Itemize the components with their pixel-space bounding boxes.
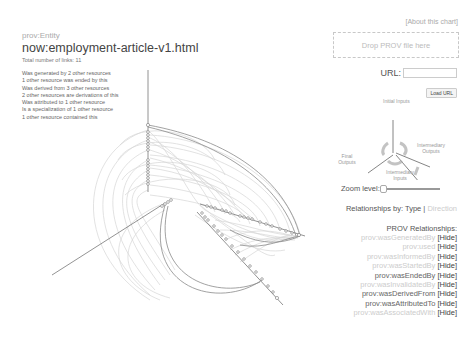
relationship-name[interactable]: prov:used [402, 242, 435, 251]
hide-button[interactable]: [Hide] [437, 252, 457, 261]
url-input[interactable] [403, 68, 457, 78]
relationships-by-toggle: Relationships by: Type | Direction [346, 204, 457, 213]
prov-relationship-row: prov:wasStartedBy [Hide] [354, 261, 457, 270]
entity-info-panel: prov:Entity now:employment-article-v1.ht… [22, 31, 222, 121]
prov-relationship-row: prov:used [Hide] [354, 242, 457, 251]
total-links: Total number of links: 11 [22, 56, 222, 64]
edges-dark [148, 125, 300, 293]
intermediary-inputs-label: Intermediary Inputs [382, 169, 418, 181]
url-label: URL: [380, 68, 401, 78]
relation-line: Was attributed to 1 other resource [22, 99, 222, 106]
relationship-name[interactable]: prov:wasGeneratedBy [361, 233, 435, 242]
relationship-name[interactable]: prov:wasEndedBy [375, 271, 435, 280]
relationship-name[interactable]: prov:wasAssociatedWith [354, 308, 436, 317]
relationships-by-type[interactable]: Type [405, 204, 421, 213]
separator: | [423, 204, 425, 213]
hide-button[interactable]: [Hide] [437, 233, 457, 242]
prov-relationships-heading: PROV Relationships: [354, 224, 457, 233]
about-chart-link[interactable]: [About this chart] [405, 18, 458, 25]
hide-button[interactable]: [Hide] [437, 271, 457, 280]
prov-relationship-row: prov:wasInformedBy [Hide] [354, 252, 457, 261]
hide-button[interactable]: [Hide] [437, 289, 457, 298]
hide-button[interactable]: [Hide] [437, 280, 457, 289]
relationship-name[interactable]: prov:wasAttributedTo [365, 299, 435, 308]
final-outputs-label: Final Outputs [336, 153, 358, 165]
hide-button[interactable]: [Hide] [437, 308, 457, 317]
prov-relationship-row: prov:wasDerivedFrom [Hide] [354, 289, 457, 298]
hide-button[interactable]: [Hide] [437, 242, 457, 251]
relation-line: Was generated by 2 other resources [22, 70, 222, 77]
axes-legend-icon [330, 95, 460, 180]
relationships-by-label: Relationships by: [346, 204, 403, 213]
relation-line: Was derived from 3 other resources [22, 85, 222, 92]
zoom-slider-handle[interactable] [380, 185, 387, 193]
entity-relations-list: Was generated by 2 other resources 1 oth… [22, 70, 222, 121]
entity-title: now:employment-article-v1.html [22, 41, 222, 55]
prov-relationship-row: prov:wasAttributedTo [Hide] [354, 299, 457, 308]
relation-line: 1 other resource was ended by this [22, 77, 222, 84]
prov-relationships-panel: PROV Relationships: prov:wasGeneratedBy … [354, 224, 457, 318]
url-row: URL: [380, 68, 457, 78]
entity-type: prov:Entity [22, 31, 222, 41]
relationships-by-direction[interactable]: Direction [427, 204, 457, 213]
drop-prov-file-zone[interactable]: Drop PROV file here [333, 32, 459, 58]
relation-line: 2 other resources are derivations of thi… [22, 92, 222, 99]
edges-light [93, 130, 300, 300]
relation-line: Is a specialization of 1 other resource [22, 106, 222, 113]
intermediary-outputs-label: Intermediary Outputs [412, 142, 450, 154]
prov-relationship-row: prov:wasInvalidatedBy [Hide] [354, 280, 457, 289]
relationship-name[interactable]: prov:wasDerivedFrom [362, 289, 435, 298]
axes-legend-diagram: Initial Inputs Intermediary Outputs Fina… [330, 95, 460, 180]
prov-relationship-row: prov:wasGeneratedBy [Hide] [354, 233, 457, 242]
relationship-name[interactable]: prov:wasStartedBy [372, 261, 435, 270]
hide-button[interactable]: [Hide] [437, 299, 457, 308]
prov-relationship-row: prov:wasEndedBy [Hide] [354, 271, 457, 280]
zoom-control: Zoom level: [341, 184, 440, 193]
relationship-name[interactable]: prov:wasInvalidatedBy [360, 280, 435, 289]
zoom-label: Zoom level: [341, 184, 380, 193]
prov-relationship-row: prov:wasAssociatedWith [Hide] [354, 308, 457, 317]
hide-button[interactable]: [Hide] [437, 261, 457, 270]
relation-line: 1 other resource contained this [22, 114, 222, 121]
initial-inputs-label: Initial Inputs [383, 98, 410, 104]
relationship-name[interactable]: prov:wasInformedBy [367, 252, 435, 261]
zoom-slider[interactable] [383, 188, 440, 190]
